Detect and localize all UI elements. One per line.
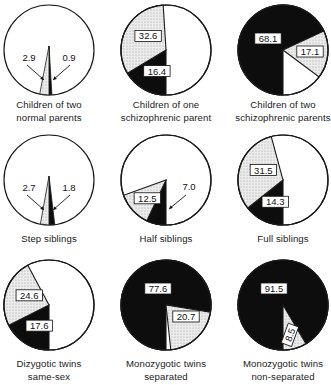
label-black-mz-twins-non-separated: 91.5 <box>261 283 287 294</box>
caption-full-siblings: Full siblings <box>224 232 331 245</box>
caption-step-siblings: Step siblings <box>0 232 108 245</box>
caption-children-two-normal: Children of two normal parents <box>0 98 108 124</box>
label-black-full-siblings: 14.3 <box>262 196 288 207</box>
label-stippled-children-one-schizo: 32.6 <box>135 30 161 41</box>
svg-text:32.6: 32.6 <box>139 30 158 41</box>
label-stippled-mz-twins-separated: 20.7 <box>173 311 199 322</box>
label-stippled-half-siblings: 12.5 <box>134 193 160 204</box>
svg-text:24.6: 24.6 <box>20 290 39 301</box>
caption-children-two-schizo: Children of two schizophrenic parents <box>224 98 331 124</box>
label-stippled-full-siblings: 31.5 <box>250 165 276 176</box>
caption-mz-twins-separated: Monozygotic twins separated <box>107 357 225 383</box>
label-stippled-step-siblings: 2.7 <box>22 182 35 193</box>
svg-text:77.6: 77.6 <box>149 283 168 294</box>
svg-text:68.1: 68.1 <box>259 33 278 44</box>
label-black-children-one-schizo: 16.4 <box>144 66 170 77</box>
label-black-children-two-normal: 0.9 <box>62 52 75 63</box>
svg-text:17.6: 17.6 <box>30 320 49 331</box>
label-black-step-siblings: 1.8 <box>62 182 75 193</box>
svg-text:17.1: 17.1 <box>301 46 320 57</box>
caption-mz-twins-non-separated: Monozygotic twins non-separated <box>224 357 331 383</box>
label-stippled-children-two-normal: 2.9 <box>22 52 35 63</box>
svg-text:20.7: 20.7 <box>177 311 196 322</box>
svg-text:14.3: 14.3 <box>266 196 285 207</box>
label-black-dz-twins-same-sex: 17.6 <box>26 320 52 331</box>
pie-chart-grid: 2.90.932.616.468.117.12.71.812.57.031.51… <box>0 0 331 385</box>
label-stippled-dz-twins-same-sex: 24.6 <box>16 290 42 301</box>
caption-children-one-schizo: Children of one schizophrenic parent <box>107 98 225 124</box>
pie-charts-canvas: 2.90.932.616.468.117.12.71.812.57.031.51… <box>0 0 331 385</box>
caption-half-siblings: Half siblings <box>107 232 225 245</box>
label-black-mz-twins-separated: 77.6 <box>145 283 171 294</box>
label-stippled-children-two-schizo: 17.1 <box>297 46 323 57</box>
label-black-children-two-schizo: 68.1 <box>255 33 281 44</box>
label-black-half-siblings: 7.0 <box>182 181 195 192</box>
svg-text:12.5: 12.5 <box>138 193 157 204</box>
caption-dz-twins: Dizygotic twins same-sex <box>0 357 108 383</box>
svg-text:91.5: 91.5 <box>265 283 284 294</box>
svg-text:16.4: 16.4 <box>148 66 167 77</box>
svg-text:31.5: 31.5 <box>254 165 273 176</box>
